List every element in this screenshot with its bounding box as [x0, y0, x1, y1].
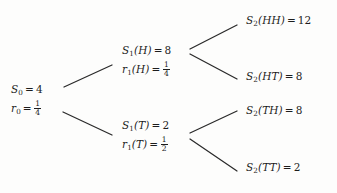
fraction-denominator: 4: [34, 108, 41, 117]
edge-root-to-tail: [63, 112, 112, 135]
equals-sign: =: [281, 161, 294, 173]
node-head: S1(H)=8 r1(H)=14: [122, 43, 171, 80]
value-leaf-tt: 2: [294, 161, 301, 173]
edge-root-to-head: [64, 65, 112, 87]
fraction-numerator: 1: [161, 136, 168, 144]
equals-sign: =: [283, 104, 296, 116]
node-root-rate: r0=14: [11, 100, 43, 119]
equals-sign: =: [285, 14, 298, 26]
fraction-denominator: 2: [161, 144, 168, 153]
leaf-ht-label: S2(HT)=8: [246, 69, 302, 87]
value-leaf-hh: 12: [298, 14, 312, 26]
binomial-tree-figure: S0=4 r0=14 S1(H)=8 r1(H)=14 S1(T)=2 r1(T…: [0, 0, 337, 193]
value-leaf-th: 8: [296, 104, 303, 116]
value-head-price: 8: [165, 44, 172, 56]
argument-T: (T): [132, 138, 148, 150]
equals-sign: =: [21, 102, 34, 114]
fraction-denominator: 4: [163, 69, 170, 78]
fraction-tail-rate: 12: [161, 136, 168, 153]
fraction-numerator: 1: [34, 100, 41, 108]
leaf-node-tt: S2(TT)=2: [246, 160, 300, 178]
fraction-head-rate: 14: [163, 61, 170, 78]
edge-head-to-hh: [190, 25, 237, 49]
node-root: S0=4 r0=14: [11, 82, 43, 119]
node-tail-price: S1(T)=2: [122, 118, 169, 136]
leaf-tt-label: S2(TT)=2: [246, 160, 300, 178]
edge-head-to-ht: [190, 54, 237, 79]
leaf-node-ht: S2(HT)=8: [246, 69, 302, 87]
equals-sign: =: [23, 83, 36, 95]
value-tail-price: 2: [162, 119, 169, 131]
fraction-numerator: 1: [163, 61, 170, 69]
node-head-price: S1(H)=8: [122, 43, 171, 61]
node-root-price: S0=4: [11, 82, 43, 100]
equals-sign: =: [149, 63, 162, 75]
node-tail: S1(T)=2 r1(T)=12: [122, 118, 169, 155]
node-tail-rate: r1(T)=12: [122, 136, 169, 155]
value-leaf-ht: 8: [296, 70, 303, 82]
argument-H: (H): [132, 63, 150, 75]
edge-tail-to-th: [190, 111, 237, 133]
argument-HH: (HH): [258, 14, 285, 26]
node-head-rate: r1(H)=14: [122, 61, 171, 80]
argument-HT: (HT): [258, 70, 283, 82]
leaf-th-label: S2(TH)=8: [246, 103, 302, 121]
equals-sign: =: [149, 119, 162, 131]
equals-sign: =: [283, 70, 296, 82]
equals-sign: =: [147, 138, 160, 150]
leaf-node-hh: S2(HH)=12: [246, 13, 311, 31]
edge-tail-to-tt: [190, 139, 237, 171]
argument-TT: (TT): [258, 161, 281, 173]
leaf-hh-label: S2(HH)=12: [246, 13, 311, 31]
argument-TH: (TH): [258, 104, 283, 116]
leaf-node-th: S2(TH)=8: [246, 103, 302, 121]
equals-sign: =: [152, 44, 165, 56]
value-root-price: 4: [36, 83, 43, 95]
argument-H: (H): [134, 44, 152, 56]
fraction-root-rate: 14: [34, 100, 41, 117]
argument-T: (T): [134, 119, 150, 131]
